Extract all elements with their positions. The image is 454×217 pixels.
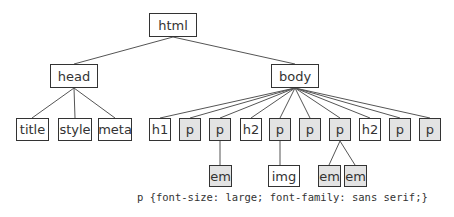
node-head: head bbox=[50, 64, 98, 88]
node-body: body bbox=[271, 64, 319, 88]
node-p: p bbox=[209, 118, 231, 141]
node-h1: h1 bbox=[149, 118, 171, 141]
node-p: p bbox=[299, 118, 321, 141]
node-title: title bbox=[16, 118, 49, 141]
node-em: em bbox=[209, 165, 232, 187]
node-em: em bbox=[344, 165, 367, 187]
node-p: p bbox=[179, 118, 201, 141]
node-meta: meta bbox=[98, 118, 132, 141]
node-p: p bbox=[269, 118, 291, 141]
node-html: html bbox=[149, 13, 197, 37]
node-p: p bbox=[419, 118, 441, 141]
node-style: style bbox=[58, 118, 92, 141]
node-em: em bbox=[318, 165, 341, 187]
node-p: p bbox=[389, 118, 411, 141]
node-h2: h2 bbox=[240, 118, 262, 141]
node-h2: h2 bbox=[359, 118, 381, 141]
css-rule-caption: p {font-size: large; font-family: sans s… bbox=[137, 191, 428, 203]
node-img: img bbox=[268, 165, 300, 187]
node-p: p bbox=[329, 118, 351, 141]
